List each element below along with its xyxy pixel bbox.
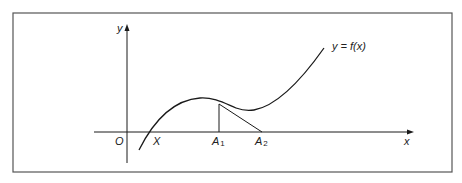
x-axis-arrow-icon (407, 130, 414, 135)
y-axis-arrow-icon (125, 24, 130, 31)
origin-label: O (115, 135, 124, 147)
newton-method-diagram: y x O X A1 A2 y = f(x) (0, 0, 462, 183)
tangent-line (219, 104, 262, 132)
curve-label: y = f(x) (331, 40, 366, 52)
x-axis-label: x (403, 135, 410, 147)
y-axis-label: y (116, 22, 124, 34)
point-a2-label: A2 (254, 135, 268, 148)
point-x-label: X (152, 135, 161, 147)
function-curve (139, 48, 324, 150)
point-a1-label: A1 (211, 135, 225, 148)
figure-frame (13, 13, 452, 172)
